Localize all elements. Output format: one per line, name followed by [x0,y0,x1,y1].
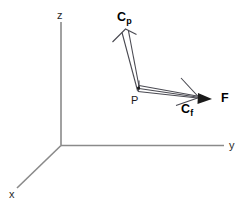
vector-label-f: F [221,92,229,105]
axis-label-z: z [57,10,63,21]
vector-label-cf-subscript: f [190,108,193,118]
vector-cp-edge-left [122,33,138,91]
vector-label-cf-base: C [181,102,190,116]
vector-label-cf: Cf [181,103,193,118]
x-axis-line [17,146,61,189]
axis-label-x: x [9,189,15,200]
vector-label-cp-subscript: p [126,16,132,26]
vector-cp-edge-right [129,31,140,89]
vector-cp-group [113,29,140,91]
point-p-marker [137,86,140,89]
axis-label-y: y [229,140,235,151]
vector-label-cp: Cp [117,11,132,26]
vector-diagram-figure: z y x P Cp Cf F [0,0,249,208]
diagram-canvas [0,0,249,208]
vector-f-shaft [139,89,207,99]
vector-f-group [139,89,212,105]
vector-label-cp-base: C [117,10,126,24]
vector-f-arrowhead [198,93,213,104]
point-label-p: P [131,95,138,106]
